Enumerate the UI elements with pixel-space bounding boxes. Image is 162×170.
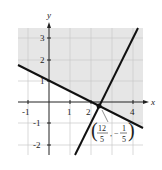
y-numerator: 1 — [122, 124, 126, 133]
x-tick-label: 1 — [67, 107, 72, 117]
x-numerator: 12 — [98, 124, 106, 133]
x-denominator: 5 — [100, 135, 104, 144]
x-axis-arrow-icon — [143, 100, 149, 104]
y-tick-label: 3 — [40, 33, 45, 43]
intersection-point — [97, 104, 102, 109]
y-tick-label: 1 — [40, 76, 45, 86]
right-paren: ) — [128, 119, 135, 142]
shaded-region — [18, 28, 143, 128]
y-tick-label: -1 — [33, 118, 41, 128]
y-axis-label: y — [46, 10, 51, 20]
comma: , — [110, 129, 112, 138]
x-tick-label: -1 — [22, 107, 30, 117]
coordinate-plane: -1 1 2 4 3 2 1 -1 -2 x y ( 12 5 , − 1 5 … — [0, 0, 162, 170]
minus-sign: − — [114, 129, 119, 138]
y-tick-label: -2 — [33, 140, 41, 150]
x-axis-label: x — [150, 97, 155, 107]
y-tick-label: 2 — [40, 55, 45, 65]
x-tick-label: 4 — [130, 107, 135, 117]
label-leader — [102, 110, 108, 122]
graph: -1 1 2 4 3 2 1 -1 -2 x y ( 12 5 , − 1 5 … — [0, 0, 162, 170]
left-paren: ( — [91, 119, 98, 142]
x-tick-label: 2 — [86, 107, 91, 117]
y-denominator: 5 — [122, 135, 126, 144]
y-axis-arrow-icon — [47, 22, 51, 28]
